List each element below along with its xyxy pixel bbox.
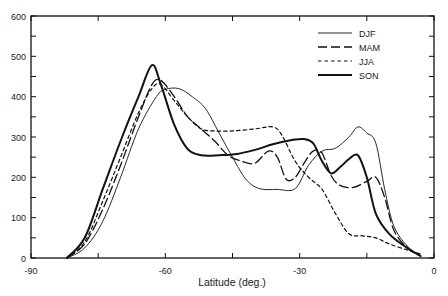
x-tick-label: -30 xyxy=(293,266,306,276)
series-line-djf xyxy=(67,88,421,258)
x-axis-title: Latitude (deg.) xyxy=(198,276,266,288)
legend-label: JJA xyxy=(359,57,374,67)
series-line-mam xyxy=(67,79,421,258)
x-tick-label: -90 xyxy=(24,266,37,276)
x-tick-label: -60 xyxy=(159,266,172,276)
legend-label: MAM xyxy=(359,43,380,53)
series-layer xyxy=(67,65,421,258)
y-tick-label: 500 xyxy=(11,52,26,62)
legend-item-son: SON xyxy=(318,71,379,81)
legend-label: SON xyxy=(359,71,379,81)
chart: -90-60-3000100200300400500600 Latitude (… xyxy=(0,0,448,296)
y-tick-label: 0 xyxy=(21,254,26,264)
y-tick-label: 300 xyxy=(11,133,26,143)
y-tick-label: 100 xyxy=(11,213,26,223)
y-tick-label: 200 xyxy=(11,173,26,183)
legend-item-mam: MAM xyxy=(318,43,380,53)
y-tick-label: 600 xyxy=(11,12,26,22)
legend: DJFMAMJJASON xyxy=(318,29,380,81)
y-tick-label: 400 xyxy=(11,92,26,102)
x-tick-label: 0 xyxy=(431,266,436,276)
legend-label: DJF xyxy=(359,29,376,39)
series-line-jja xyxy=(67,84,421,258)
legend-item-jja: JJA xyxy=(318,57,374,67)
legend-item-djf: DJF xyxy=(318,29,376,39)
